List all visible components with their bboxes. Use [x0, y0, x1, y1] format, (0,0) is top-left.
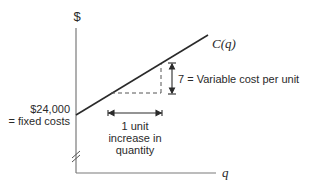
intercept-label-line2: = fixed costs [9, 115, 71, 127]
run-label-line1: 1 unit [122, 120, 149, 132]
run-label-line3: quantity [116, 144, 155, 156]
curve-label: C(q) [212, 36, 236, 51]
run-label-line2: increase in [108, 132, 161, 144]
y-axis-label: $ [73, 9, 81, 24]
run-arrow-icon [108, 110, 162, 116]
rise-arrow-icon [168, 63, 176, 94]
intercept-label-line1: $24,000 [30, 103, 70, 115]
x-axis-label: q [222, 165, 229, 180]
cost-function-diagram: $ q C(q) $24,000 = fixed costs 7 = Varia… [0, 0, 311, 187]
slope-label: 7 = Variable cost per unit [178, 73, 299, 85]
